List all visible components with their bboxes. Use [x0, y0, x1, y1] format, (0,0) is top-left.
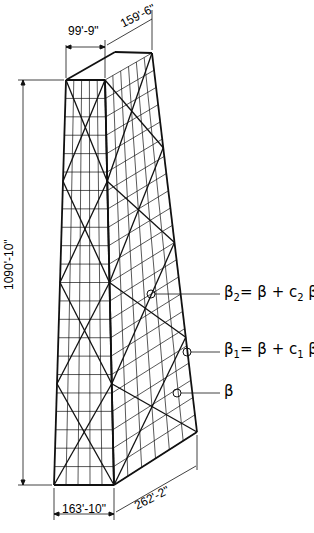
- brace: [110, 148, 164, 283]
- brace: [60, 181, 107, 282]
- arrow-head: [54, 512, 59, 516]
- arrow-head: [21, 80, 25, 85]
- brace: [63, 80, 105, 181]
- arrow-head: [21, 480, 25, 485]
- formula-tail: β: [304, 340, 314, 358]
- formula-tail: β: [304, 283, 314, 301]
- brace: [112, 384, 197, 432]
- arrow-head: [100, 45, 105, 49]
- brace: [57, 283, 110, 384]
- top-edge: [66, 52, 115, 80]
- beta-symbol: β: [224, 283, 234, 301]
- node-beta: [173, 389, 181, 397]
- formula: = β + c: [240, 340, 297, 358]
- brace: [110, 283, 186, 338]
- brace: [107, 53, 152, 181]
- dim-bottom-front: 163'-10": [62, 502, 106, 516]
- beta-symbol: β: [224, 340, 234, 358]
- arrow-head: [109, 512, 114, 516]
- brace: [57, 384, 114, 485]
- label-beta2: β2= β + c2 β: [224, 283, 314, 303]
- grid-line: [113, 76, 128, 477]
- brace: [112, 243, 175, 384]
- brace: [60, 283, 112, 384]
- arrow-head: [66, 45, 71, 49]
- label-beta: β: [224, 382, 234, 400]
- brace: [54, 384, 112, 485]
- grid-line: [89, 80, 90, 485]
- grid-line: [121, 71, 142, 467]
- dim-top-front: 99'-9": [68, 24, 99, 38]
- dim-height: 1090'-10": [2, 239, 16, 290]
- label-beta1: β1= β + c1 β: [224, 340, 314, 360]
- tower-diagram: [0, 0, 314, 533]
- formula: = β + c: [240, 283, 297, 301]
- top-edge: [115, 52, 152, 53]
